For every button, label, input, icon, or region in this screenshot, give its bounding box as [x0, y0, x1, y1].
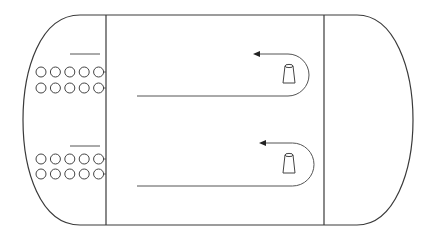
- seat-icon: [94, 83, 104, 93]
- cone-icon: [283, 153, 295, 173]
- outline-left-curve: [23, 15, 80, 225]
- seat-icon: [65, 67, 75, 77]
- seat-row: [36, 67, 106, 77]
- seat-icon: [36, 154, 46, 164]
- arrow-left-icon: [253, 51, 260, 57]
- seat-icon: [50, 169, 60, 179]
- lane-path: [137, 54, 309, 96]
- seat-icon: [50, 154, 60, 164]
- dividers: [106, 15, 324, 225]
- seat-icon: [79, 169, 89, 179]
- seat-icon: [79, 67, 89, 77]
- seat-icon: [94, 169, 104, 179]
- seat-icon: [65, 83, 75, 93]
- upper-seat-group: [36, 54, 106, 93]
- arrow-left-icon: [259, 140, 266, 146]
- cone-top: [285, 153, 293, 156]
- seat-icon: [94, 154, 104, 164]
- floor-diagram: [0, 0, 435, 240]
- lower-lane: [137, 140, 314, 186]
- cone-top: [285, 64, 293, 67]
- seat-icon: [65, 169, 75, 179]
- seat-row: [36, 169, 106, 179]
- seat-icon: [65, 154, 75, 164]
- seat-icon: [50, 83, 60, 93]
- upper-lane: [137, 51, 309, 96]
- cone-body: [283, 155, 295, 173]
- cone-body: [283, 66, 295, 83]
- cone-icon: [283, 64, 295, 83]
- seat-row: [36, 154, 106, 164]
- seat-icon: [36, 67, 46, 77]
- seat-icon: [79, 83, 89, 93]
- seat-icon: [50, 67, 60, 77]
- seat-row: [36, 83, 106, 93]
- seat-icon: [36, 83, 46, 93]
- diagram-canvas: [0, 0, 435, 240]
- seat-icon: [94, 67, 104, 77]
- outline-right-curve: [357, 15, 413, 225]
- seat-groups: [36, 54, 106, 179]
- seat-icon: [36, 169, 46, 179]
- lanes: [137, 51, 314, 186]
- seat-icon: [79, 154, 89, 164]
- lower-seat-group: [36, 146, 106, 179]
- room-outline: [23, 15, 413, 225]
